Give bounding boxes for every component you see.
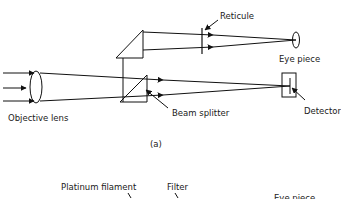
optical-pyrometer-diagram (0, 0, 341, 199)
filter-label: Filter (167, 183, 188, 192)
objective-lens-icon (30, 71, 42, 103)
incoming-rays (3, 73, 34, 101)
detector-label: Detector (304, 107, 341, 116)
figure-b-leaders (128, 193, 178, 198)
main-rays (40, 73, 290, 101)
objective-lens-label: Objective lens (8, 114, 68, 123)
upper-prism (116, 30, 143, 102)
platinum-filament-label: Platinum filament (61, 183, 136, 192)
figure-b-eye-piece-label: Eye piece (274, 194, 315, 199)
detector-icon (282, 73, 296, 97)
reticule-rays (143, 32, 296, 50)
figure-a-caption: (a) (150, 140, 162, 149)
reticule-label: Reticule (220, 12, 254, 21)
beam-splitter-icon (120, 75, 147, 102)
eye-piece-label: Eye piece (279, 55, 320, 64)
beam-splitter-label: Beam splitter (172, 109, 229, 118)
